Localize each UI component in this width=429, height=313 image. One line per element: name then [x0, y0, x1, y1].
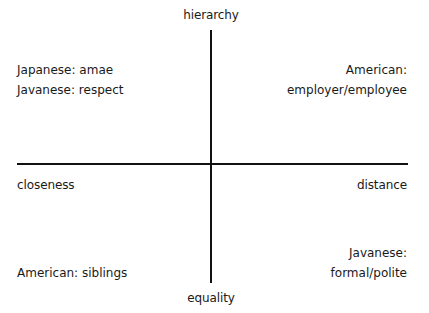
- horizontal-axis-line: [17, 163, 408, 165]
- axis-label-distance: distance: [357, 175, 407, 195]
- quadrant-top-right: American: employer/employee: [287, 60, 407, 100]
- axis-label-hierarchy: hierarchy: [0, 5, 422, 25]
- quadrant-text-javanese-respect: Javanese: respect: [17, 80, 123, 100]
- vertical-axis-line: [210, 30, 212, 283]
- quadrant-bottom-left: American: siblings: [17, 263, 127, 283]
- quadrant-diagram: hierarchy equality closeness distance Ja…: [0, 0, 429, 313]
- quadrant-text-employer-employee: employer/employee: [287, 80, 407, 100]
- quadrant-text-formal-polite: formal/polite: [331, 263, 407, 283]
- quadrant-text-american: American:: [287, 60, 407, 80]
- axis-label-equality: equality: [0, 288, 422, 308]
- axis-label-closeness: closeness: [17, 175, 75, 195]
- quadrant-text-japanese-amae: Japanese: amae: [17, 60, 123, 80]
- quadrant-text-javanese: Javanese:: [331, 243, 407, 263]
- quadrant-bottom-right: Javanese: formal/polite: [331, 243, 407, 283]
- quadrant-text-american-siblings: American: siblings: [17, 263, 127, 283]
- quadrant-top-left: Japanese: amae Javanese: respect: [17, 60, 123, 100]
